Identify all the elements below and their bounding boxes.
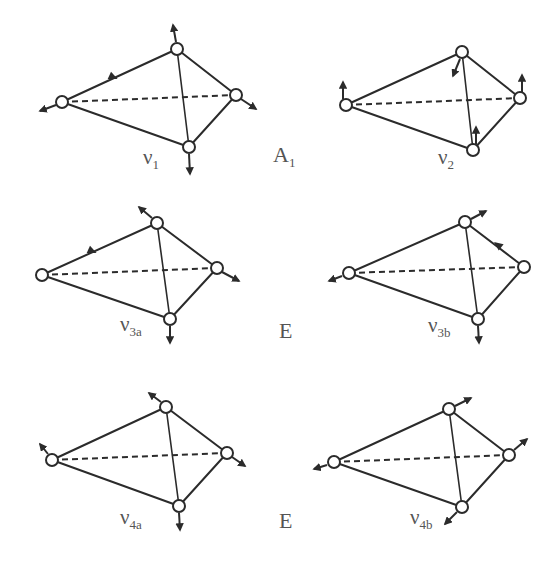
mode-symbol: ν (143, 145, 153, 169)
displacement-arrow-icon (40, 105, 56, 111)
symmetry-symbol: A (273, 142, 289, 167)
displacement-arrow-icon (453, 59, 460, 76)
displacement-arrow-icon (445, 512, 457, 524)
atom-bottom (183, 141, 195, 153)
mode-v4a (40, 393, 245, 530)
atom-top (459, 216, 471, 228)
edge-top-right (465, 222, 524, 267)
atom-left (56, 96, 68, 108)
edge-top-bottom (166, 407, 179, 506)
symmetry-label-E-1: E (279, 318, 292, 344)
edge-bottom-left (42, 275, 170, 319)
atom-left (340, 99, 352, 111)
symmetry-symbol: E (279, 508, 292, 533)
mode-label-v4b: ν4b (410, 505, 433, 533)
edge-top-right (166, 407, 227, 453)
modes-layer (36, 25, 530, 530)
edge-bottom-left (52, 460, 179, 506)
edge-top-bottom (465, 222, 478, 319)
mode-subscript: 4a (130, 517, 142, 532)
symmetry-label-E-2: E (279, 508, 292, 534)
mode-symbol: ν (438, 145, 448, 169)
edge-right-bottom (478, 267, 524, 319)
atom-top (443, 403, 455, 415)
atom-right (514, 92, 526, 104)
mode-subscript: 3a (130, 324, 142, 339)
edge-right-bottom (473, 98, 520, 150)
mode-symbol: ν (120, 505, 130, 529)
edge-right-bottom (462, 455, 509, 507)
atom-top (151, 217, 163, 229)
displacement-arrow-icon (179, 513, 180, 530)
edge-left-right-hidden (52, 453, 227, 460)
mode-subscript: 4b (420, 517, 433, 532)
displacement-arrow-icon (139, 207, 152, 218)
edge-left-top (42, 223, 157, 275)
displacement-arrow-icon (329, 276, 342, 281)
edge-left-top (62, 49, 177, 102)
displacement-arrow-icon (478, 326, 479, 343)
mode-label-v2: ν2 (438, 145, 454, 173)
atom-top (171, 43, 183, 55)
mode-label-v4a: ν4a (120, 505, 142, 533)
atom-right (221, 447, 233, 459)
edge-top-right (177, 49, 236, 95)
edge-bottom-left (62, 102, 189, 147)
atom-bottom (456, 501, 468, 513)
displacement-arrow-icon (232, 457, 245, 466)
atom-bottom (472, 313, 484, 325)
displacement-arrow-icon (40, 444, 48, 454)
atom-right (211, 262, 223, 274)
edge-direction-arrow-icon (87, 246, 97, 253)
atom-top (160, 401, 172, 413)
displacement-arrow-icon (471, 211, 486, 219)
atom-right (503, 449, 515, 461)
edge-direction-arrow-icon (108, 72, 118, 79)
mode-label-v3b: ν3b (428, 313, 451, 341)
edge-left-right-hidden (346, 98, 520, 105)
mode-v2 (340, 46, 526, 156)
displacement-arrow-icon (514, 439, 527, 450)
edge-right-bottom (170, 268, 217, 319)
edge-top-right (449, 409, 509, 455)
atom-left (46, 454, 58, 466)
mode-subscript: 2 (448, 157, 455, 172)
displacement-arrow-icon (222, 272, 239, 281)
edge-left-top (346, 52, 462, 105)
mode-label-v3a: ν3a (120, 312, 142, 340)
edge-right-bottom (189, 95, 236, 147)
edge-left-top (349, 222, 465, 273)
atom-bottom (164, 313, 176, 325)
atom-left (36, 269, 48, 281)
displacement-arrow-icon (455, 398, 471, 406)
atom-top (456, 46, 468, 58)
edge-left-right-hidden (62, 95, 236, 102)
symmetry-subscript: 1 (289, 155, 296, 170)
edge-top-right (157, 223, 217, 268)
symmetry-label-A1: A1 (273, 142, 295, 171)
edge-left-right-hidden (42, 268, 217, 275)
displacement-arrow-icon (173, 25, 176, 42)
atom-right (230, 89, 242, 101)
mode-symbol: ν (428, 313, 438, 337)
atom-right (518, 261, 530, 273)
displacement-arrow-icon (314, 465, 327, 469)
displacement-arrow-icon (241, 99, 256, 109)
edge-right-bottom (179, 453, 227, 506)
displacement-arrow-icon (189, 154, 190, 174)
edge-left-right-hidden (349, 267, 524, 273)
atom-bottom (467, 144, 479, 156)
edge-bottom-left (334, 462, 462, 507)
mode-label-v1: ν1 (143, 145, 159, 173)
vibrational-modes-diagram (0, 0, 560, 568)
mode-subscript: 1 (153, 157, 160, 172)
mode-symbol: ν (120, 312, 130, 336)
edge-bottom-left (349, 273, 478, 319)
edge-left-top (52, 407, 166, 460)
mode-subscript: 3b (438, 325, 451, 340)
displacement-arrow-icon (149, 393, 161, 402)
atom-bottom (173, 500, 185, 512)
atom-left (328, 456, 340, 468)
atom-left (343, 267, 355, 279)
edge-left-top (334, 409, 449, 462)
